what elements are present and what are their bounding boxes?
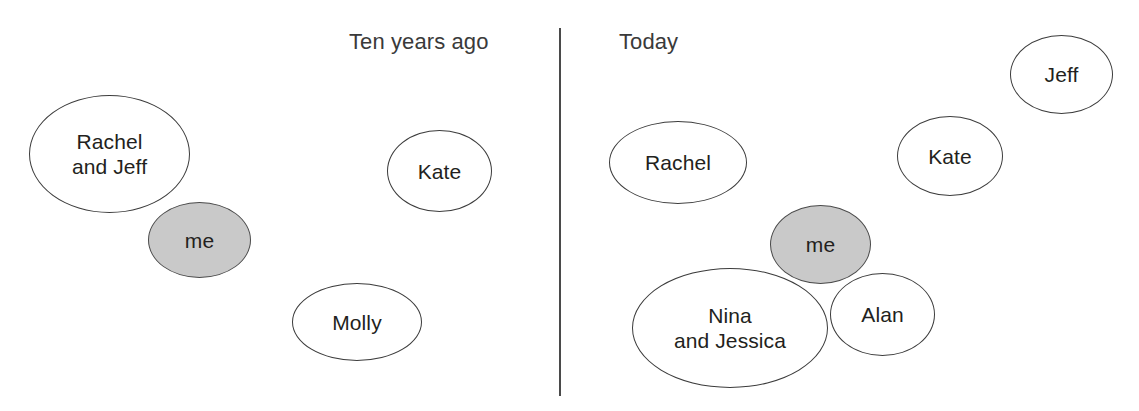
bubble-kate-past: Kate [387,130,492,212]
bubble-me-past: me [148,202,251,278]
bubble-label: me [806,232,835,257]
bubble-label: Nina and Jessica [674,303,786,353]
bubble-label: Jeff [1045,62,1079,87]
bubble-jeff-today: Jeff [1010,35,1113,114]
bubble-kate-today: Kate [897,116,1003,196]
bubble-me-today: me [770,205,871,284]
bubble-label: me [185,228,214,253]
bubble-alan-today: Alan [830,273,935,356]
bubble-nina-and-jessica-today: Nina and Jessica [632,268,828,388]
vertical-divider [559,28,561,396]
bubble-label: Rachel [645,150,711,175]
bubble-label: Molly [332,310,382,335]
bubble-rachel-today: Rachel [609,121,747,204]
bubble-molly-past: Molly [292,283,422,361]
diagram-canvas: Ten years ago Today Rachel and Jeff me K… [0,0,1139,411]
bubble-rachel-and-jeff-past: Rachel and Jeff [29,95,190,213]
bubble-label: Rachel and Jeff [72,129,147,179]
bubble-label: Alan [861,302,903,327]
bubble-label: Kate [928,144,972,169]
panel-title-today: Today [619,29,678,55]
bubble-label: Kate [418,159,462,184]
panel-title-ten-years-ago: Ten years ago [349,29,489,55]
